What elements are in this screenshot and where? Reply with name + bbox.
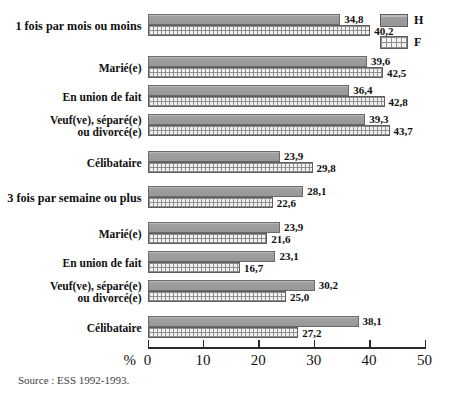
bar-pair: 38,127,2: [148, 316, 425, 338]
x-axis-tick-label: 40: [354, 353, 384, 368]
category-label: Veuf(ve), séparé(e) ou divorcé(e): [0, 280, 142, 304]
legend-swatch-h-icon: [380, 14, 408, 27]
group-header-label: 1 fois par mois ou moins: [0, 20, 142, 32]
x-axis-tick: [369, 340, 371, 348]
bar-value-h: 36,4: [353, 85, 372, 96]
x-axis-tick-label: 50: [410, 353, 440, 368]
bar-h: [148, 316, 359, 327]
source-note: Source : ESS 1992-1993.: [18, 374, 129, 387]
x-axis-tick-label: 30: [299, 353, 329, 368]
bar-h: [148, 251, 276, 262]
bar-pair: 23,116,7: [148, 251, 425, 273]
bar-f: [148, 262, 241, 273]
bar-f: [148, 233, 268, 244]
bar-value-h: 39,3: [369, 114, 388, 125]
category-label: Marié(e): [0, 62, 142, 74]
bar-value-f: 21,6: [271, 234, 290, 245]
bar-pair: 23,929,8: [148, 151, 425, 173]
bar-f: [148, 291, 287, 302]
bar-h: [148, 151, 280, 162]
bar-h: [148, 222, 280, 233]
bar-pair: 36,442,8: [148, 85, 425, 107]
x-axis-tick: [203, 340, 205, 348]
legend-label-f: F: [414, 34, 421, 51]
bar-value-h: 34,8: [344, 14, 363, 25]
bar-value-f: 43,7: [394, 126, 413, 137]
bar-f: [148, 327, 299, 338]
x-axis-tick: [148, 340, 150, 348]
chart-root: 1 fois par mois ou moins34,840,2Marié(e)…: [0, 0, 453, 393]
bar-value-h: 28,1: [307, 186, 326, 197]
category-label: En union de fait: [0, 257, 142, 269]
bar-h: [148, 280, 315, 291]
bar-f: [148, 125, 390, 136]
x-axis-tick: [425, 340, 427, 348]
category-label: Marié(e): [0, 228, 142, 240]
x-axis-tick-label: 0: [133, 353, 163, 368]
bar-value-f: 42,8: [389, 97, 408, 108]
group-header-label: 3 fois par semaine ou plus: [0, 192, 142, 204]
legend-swatch-f-icon: [380, 36, 408, 49]
bar-pair: 39,642,5: [148, 56, 425, 78]
bar-h: [148, 114, 366, 125]
bar-h: [148, 186, 304, 197]
category-label: Célibataire: [0, 157, 142, 169]
x-axis-tick-label: 20: [243, 353, 273, 368]
bar-value-f: 16,7: [244, 263, 263, 274]
x-axis-unit-label: %: [124, 353, 137, 368]
bar-value-f: 27,2: [302, 328, 321, 339]
bar-value-f: 22,6: [277, 198, 296, 209]
plot-area: 1 fois par mois ou moins34,840,2Marié(e)…: [0, 0, 453, 393]
bar-value-h: 23,9: [284, 151, 303, 162]
bar-value-f: 25,0: [290, 292, 309, 303]
bar-f: [148, 96, 385, 107]
bar-pair: 23,921,6: [148, 222, 425, 244]
bar-h: [148, 56, 367, 67]
bar-value-h: 38,1: [363, 316, 382, 327]
bar-value-f: 29,8: [317, 163, 336, 174]
bar-pair: 28,122,6: [148, 186, 425, 208]
bar-f: [148, 197, 273, 208]
x-axis-line: [148, 347, 427, 349]
bar-pair: 39,343,7: [148, 114, 425, 136]
bar-f: [148, 162, 313, 173]
x-axis-tick: [258, 340, 260, 348]
bar-f: [148, 67, 383, 78]
bar-h: [148, 85, 350, 96]
bar-value-h: 23,1: [279, 251, 298, 262]
bar-pair: 30,225,0: [148, 280, 425, 302]
bar-value-h: 30,2: [319, 280, 338, 291]
x-axis-tick-label: 10: [188, 353, 218, 368]
bar-value-h: 39,6: [371, 56, 390, 67]
category-label: En union de fait: [0, 91, 142, 103]
category-label: Veuf(ve), séparé(e) ou divorcé(e): [0, 114, 142, 138]
bar-value-f: 42,5: [387, 68, 406, 79]
x-axis-tick: [314, 340, 316, 348]
bar-value-h: 23,9: [284, 222, 303, 233]
legend-label-h: H: [414, 12, 423, 29]
bar-h: [148, 14, 341, 25]
category-label: Célibataire: [0, 322, 142, 334]
bar-f: [148, 25, 371, 36]
